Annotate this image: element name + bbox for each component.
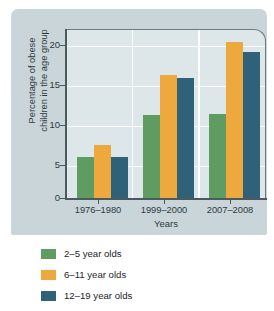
- bar-1976-1980-2-5: [77, 157, 94, 198]
- y-tick-10: [60, 125, 66, 126]
- x-tick-3: [230, 199, 231, 204]
- bar-2007-2008-12-19: [243, 52, 260, 198]
- obesity-bar-chart-figure: 20 15 10 5 0 1976–1980 1999–2000 2007–20…: [0, 0, 274, 311]
- y-tick-0: [60, 198, 66, 199]
- legend-item-6-11: 6–11 year olds: [41, 264, 241, 285]
- chart-legend: 2–5 year olds 6–11 year olds 12–19 year …: [41, 243, 241, 306]
- y-axis-title-line2: children in the age group: [38, 29, 48, 131]
- y-tick-label-0: 0: [40, 193, 60, 203]
- bar-2007-2008-6-11: [226, 42, 243, 198]
- x-tick-label-2007-2008: 2007–2008: [199, 205, 261, 215]
- legend-item-12-19: 12–19 year olds: [41, 285, 241, 306]
- y-tick-15: [60, 85, 66, 86]
- bar-1976-1980-6-11: [94, 145, 111, 198]
- x-axis-title: Years: [66, 218, 266, 229]
- bar-1976-1980-12-19: [111, 157, 128, 198]
- y-tick-5: [60, 165, 66, 166]
- x-tick-label-1999-2000: 1999–2000: [133, 205, 195, 215]
- bar-1999-2000-6-11: [160, 75, 177, 198]
- x-tick-1: [98, 199, 99, 204]
- legend-label-12-19: 12–19 year olds: [64, 290, 132, 301]
- legend-label-6-11: 6–11 year olds: [64, 269, 126, 280]
- bars-layer: [66, 29, 266, 198]
- bar-2007-2008-2-5: [209, 114, 226, 199]
- x-tick-2: [164, 199, 165, 204]
- legend-swatch-green: [41, 249, 56, 259]
- legend-label-2-5: 2–5 year olds: [64, 248, 122, 259]
- y-axis-title-line1: Percentage of obese: [27, 38, 37, 124]
- x-axis-line: [65, 198, 267, 200]
- y-tick-20: [60, 45, 66, 46]
- y-axis-title: Percentage of obese children in the age …: [27, 6, 50, 156]
- legend-swatch-orange: [41, 270, 56, 280]
- bar-1999-2000-2-5: [143, 115, 160, 198]
- y-tick-label-5: 5: [40, 160, 60, 170]
- legend-item-2-5: 2–5 year olds: [41, 243, 241, 264]
- legend-swatch-blue: [41, 291, 56, 301]
- chart-panel: 20 15 10 5 0 1976–1980 1999–2000 2007–20…: [11, 9, 267, 235]
- y-axis-line: [65, 29, 67, 199]
- bar-1999-2000-12-19: [177, 78, 194, 198]
- x-tick-label-1976-1980: 1976–1980: [67, 205, 129, 215]
